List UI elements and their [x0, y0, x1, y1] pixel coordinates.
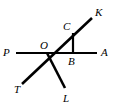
label-K: K: [95, 7, 102, 18]
ray-OL: [47, 53, 65, 88]
label-A: A: [101, 47, 108, 58]
label-P: P: [3, 47, 10, 58]
label-O: O: [40, 40, 48, 51]
label-B: B: [68, 56, 75, 67]
label-T: T: [14, 84, 20, 95]
geometry-figure: P A K T L O B C: [0, 0, 114, 109]
label-C: C: [63, 21, 70, 32]
label-L: L: [63, 93, 69, 104]
